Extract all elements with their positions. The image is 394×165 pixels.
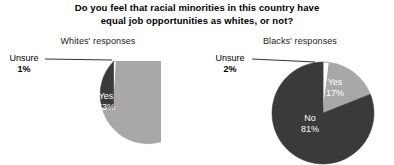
- chart-title: Do you feel that racial minorities in th…: [0, 2, 394, 27]
- pie-panel-blacks: Blacks' responses Yes 17% No 81% Unsure: [197, 33, 394, 165]
- pie-chart-figure: Do you feel that racial minorities in th…: [0, 0, 394, 165]
- chart-title-line-1: Do you feel that racial minorities in th…: [0, 2, 394, 15]
- chart-title-line-2: equal job opportunities as whites, or no…: [0, 15, 394, 28]
- pie-callout-whites-unsure-name: Unsure: [9, 53, 38, 63]
- pie-callout-whites-unsure: Unsure 1%: [2, 53, 46, 75]
- pie-callout-blacks-unsure-value: 2%: [207, 64, 253, 75]
- pie-panel-whites: Whites' responses Yes 53% No 47% Unsure: [0, 33, 197, 165]
- pie-callout-blacks-unsure-name: Unsure: [215, 53, 244, 63]
- pie-callout-whites-unsure-value: 1%: [2, 64, 46, 75]
- pie-callout-blacks-unsure: Unsure 2%: [207, 53, 253, 75]
